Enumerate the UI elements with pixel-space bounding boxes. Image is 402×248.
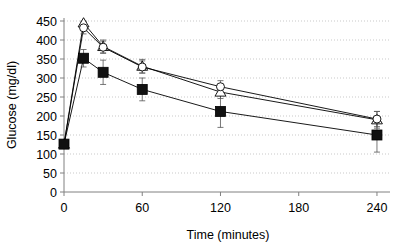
x-tick-label: 180 xyxy=(288,201,309,215)
data-markers-group xyxy=(59,18,383,149)
glucose-time-chart: 050100150200250300350400450 060120180240… xyxy=(0,0,402,248)
y-tick-label: 100 xyxy=(36,148,57,162)
x-tick-labels-group: 060120180240 xyxy=(61,201,388,215)
y-tick-label: 400 xyxy=(36,34,57,48)
x-axis-title: Time (minutes) xyxy=(187,228,270,242)
y-tick-label: 450 xyxy=(36,15,57,29)
marker-square-filled xyxy=(215,106,225,116)
y-tick-label: 300 xyxy=(36,72,57,86)
y-tick-marks-group xyxy=(60,21,64,192)
x-tick-label: 240 xyxy=(367,201,388,215)
marker-circle-open xyxy=(138,63,146,71)
marker-circle-open xyxy=(216,83,224,91)
marker-square-filled xyxy=(79,53,89,63)
marker-square-filled xyxy=(137,84,147,94)
chart-plot-svg: 050100150200250300350400450 060120180240… xyxy=(0,0,402,248)
marker-square-filled xyxy=(98,67,108,77)
x-tick-marks-group xyxy=(64,192,377,196)
y-axis-title: Glucose (mg/dl) xyxy=(5,61,19,149)
y-tick-labels-group: 050100150200250300350400450 xyxy=(36,15,57,200)
marker-square-filled xyxy=(372,130,382,140)
y-tick-label: 350 xyxy=(36,53,57,67)
x-tick-label: 60 xyxy=(135,201,149,215)
y-tick-label: 0 xyxy=(50,186,57,200)
marker-circle-open xyxy=(99,43,107,51)
y-tick-label: 200 xyxy=(36,110,57,124)
marker-square-filled xyxy=(59,139,69,149)
x-tick-label: 120 xyxy=(210,201,231,215)
gridlines-group xyxy=(64,21,390,173)
x-tick-label: 0 xyxy=(61,201,68,215)
y-tick-label: 250 xyxy=(36,91,57,105)
marker-circle-open xyxy=(80,24,88,32)
y-tick-label: 50 xyxy=(43,167,57,181)
axis-lines-group xyxy=(64,18,390,192)
marker-circle-open xyxy=(373,115,381,123)
y-tick-label: 150 xyxy=(36,129,57,143)
